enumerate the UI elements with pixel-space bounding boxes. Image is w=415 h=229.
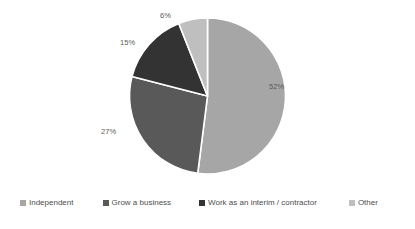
pie-chart-figure: 52% 27% 15% 6% Independent Grow a busine… [0, 0, 415, 229]
slice-data-label-independent: 52% [269, 82, 284, 91]
chart-legend: Independent Grow a business Work as an i… [0, 198, 415, 220]
legend-label-other: Other [358, 198, 378, 208]
legend-swatch-icon-grow-a-business [103, 200, 109, 206]
pie-slice-group [130, 18, 286, 174]
slice-data-label-interim-contractor: 15% [120, 38, 135, 47]
legend-item-independent[interactable]: Independent [20, 198, 74, 208]
slice-data-label-other: 6% [160, 11, 171, 20]
legend-item-other[interactable]: Other [349, 198, 378, 208]
legend-item-grow-a-business[interactable]: Grow a business [103, 198, 172, 208]
pie-slice[interactable] [198, 18, 286, 174]
chart-plot-area: 52% 27% 15% 6% [0, 0, 415, 192]
pie-svg [0, 0, 415, 192]
legend-swatch-icon-other [349, 200, 355, 206]
legend-item-interim-contractor[interactable]: Work as an interim / contractor [199, 198, 317, 208]
slice-data-label-grow-a-business: 27% [101, 127, 116, 136]
legend-label-interim-contractor: Work as an interim / contractor [208, 198, 317, 208]
legend-swatch-icon-interim-contractor [199, 200, 205, 206]
legend-label-grow-a-business: Grow a business [112, 198, 172, 208]
legend-label-independent: Independent [29, 198, 74, 208]
legend-swatch-icon-independent [20, 200, 26, 206]
